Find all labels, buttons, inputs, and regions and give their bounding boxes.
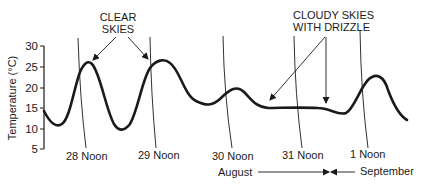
month-august: August	[218, 166, 252, 178]
y-tick-label: 15	[25, 102, 38, 114]
x-labels: 28 Noon 29 Noon 30 Noon 31 Noon 1 Noon	[66, 148, 385, 162]
temperature-chart: 30 25 20 15 10 5 Temperature (°C) CLEAR …	[0, 0, 428, 193]
y-axis-label: Temperature (°C)	[6, 56, 18, 140]
svg-text:WITH DRIZZLE: WITH DRIZZLE	[293, 21, 370, 33]
noon-line-31	[294, 36, 302, 148]
y-tick-label: 5	[32, 143, 38, 155]
noon-label-29: 29 Noon	[138, 149, 180, 161]
y-axis: 30 25 20 15 10 5 Temperature (°C)	[6, 40, 44, 155]
svg-text:SKIES: SKIES	[102, 23, 134, 35]
noon-label-1: 1 Noon	[350, 148, 385, 160]
y-tick-label: 20	[25, 82, 38, 94]
annotation-cloudy-skies: CLOUDY SKIES WITH DRIZZLE	[270, 9, 374, 103]
noon-line-28	[78, 38, 86, 148]
y-tick-label: 10	[25, 123, 38, 135]
svg-text:CLEAR: CLEAR	[100, 11, 137, 23]
noon-line-29	[150, 37, 156, 148]
y-tick-label: 25	[25, 61, 38, 73]
temperature-line	[44, 60, 407, 129]
month-september: September	[360, 165, 414, 177]
noon-label-31: 31 Noon	[282, 149, 324, 161]
month-labels: August September	[218, 165, 414, 178]
noon-label-28: 28 Noon	[66, 150, 108, 162]
annotation-clear-skies: CLEAR SKIES	[93, 11, 148, 60]
noon-label-30: 30 Noon	[212, 150, 254, 162]
y-tick-label: 30	[25, 40, 38, 52]
svg-text:CLOUDY SKIES: CLOUDY SKIES	[293, 9, 374, 21]
